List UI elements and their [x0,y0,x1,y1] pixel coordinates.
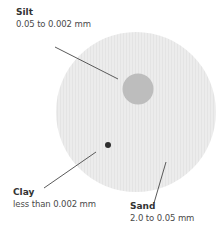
clay-range: less than 0.002 mm [13,198,96,210]
silt-range: 0.05 to 0.002 mm [16,18,91,30]
silt-particle-circle [123,74,154,105]
sand-range: 2.0 to 0.05 mm [130,212,194,224]
clay-particle-dot [105,142,111,148]
sand-label: Sand 2.0 to 0.05 mm [130,200,194,224]
sand-name: Sand [130,200,194,212]
sand-particle-circle [56,32,216,192]
clay-name: Clay [13,186,96,198]
silt-name: Silt [16,6,91,18]
clay-label: Clay less than 0.002 mm [13,186,96,210]
silt-label: Silt 0.05 to 0.002 mm [16,6,91,30]
